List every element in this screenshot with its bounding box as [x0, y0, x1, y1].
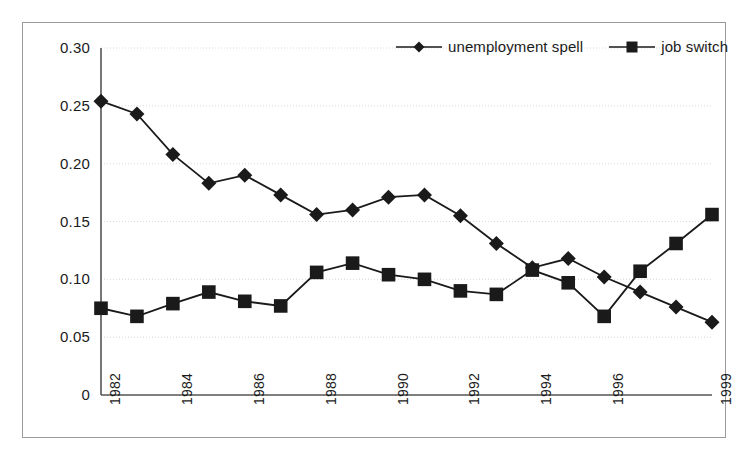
legend-label-unemployment-spell: unemployment spell [448, 38, 583, 55]
data-point-marker [489, 236, 504, 251]
y-axis-tick-label: 0.15 [32, 213, 90, 230]
x-axis-tick-label: 1988 [323, 373, 339, 405]
data-point-marker [454, 284, 468, 298]
data-point-marker [346, 256, 360, 270]
data-point-marker [561, 251, 576, 266]
x-axis-tick-label: 1999 [718, 373, 734, 405]
data-point-marker [237, 168, 252, 183]
x-axis-tick-label: 1982 [107, 373, 123, 405]
legend-square-marker-icon [609, 39, 655, 55]
chart-legend: unemployment spell job switch [396, 38, 728, 55]
data-point-marker [633, 285, 648, 300]
y-axis-tick-label: 0.10 [32, 270, 90, 287]
data-point-marker [597, 270, 612, 285]
data-point-marker [130, 310, 144, 324]
legend-label-job-switch: job switch [661, 38, 728, 55]
data-point-marker [597, 310, 611, 324]
x-axis-tick-label: 1986 [251, 373, 267, 405]
data-point-marker [453, 208, 468, 223]
data-point-marker [669, 300, 684, 315]
series-line-unemployment-spell [101, 101, 712, 322]
legend-item-unemployment-spell: unemployment spell [396, 38, 583, 55]
data-point-marker [418, 273, 432, 287]
y-axis-tick-label: 0.05 [32, 328, 90, 345]
x-axis-tick-label: 1994 [538, 373, 554, 405]
legend-item-job-switch: job switch [609, 38, 728, 55]
y-axis-tick-label: 0.25 [32, 97, 90, 114]
data-point-marker [309, 207, 324, 222]
data-point-marker [202, 285, 216, 299]
data-point-marker [525, 263, 539, 277]
series-line-job-switch [101, 215, 712, 317]
data-point-marker [345, 202, 360, 217]
data-point-marker [310, 266, 324, 280]
data-point-marker [669, 237, 683, 251]
data-point-marker [705, 208, 719, 222]
data-point-marker [705, 315, 720, 330]
x-axis-tick-label: 1996 [610, 373, 626, 405]
data-point-marker [417, 187, 432, 202]
data-point-marker [273, 187, 288, 202]
x-axis-tick-label: 1990 [395, 373, 411, 405]
y-axis-tick-label: 0.20 [32, 155, 90, 172]
y-axis-tick-label: 0.30 [32, 39, 90, 56]
x-axis-tick-label: 1992 [466, 373, 482, 405]
data-point-marker [238, 295, 252, 309]
data-point-marker [382, 268, 396, 282]
data-point-marker [633, 264, 647, 278]
data-point-marker [94, 94, 109, 109]
data-point-marker [561, 276, 575, 290]
data-point-marker [166, 297, 180, 311]
x-axis-tick-label: 1984 [179, 373, 195, 405]
data-point-marker [274, 299, 288, 313]
data-point-marker [381, 190, 396, 205]
data-point-marker [94, 301, 108, 315]
data-point-marker [490, 288, 504, 302]
y-axis-tick-label: 0 [32, 386, 90, 403]
legend-diamond-marker-icon [396, 39, 442, 55]
chart-figure: 00.050.100.150.200.250.30 19821984198619… [0, 0, 746, 460]
